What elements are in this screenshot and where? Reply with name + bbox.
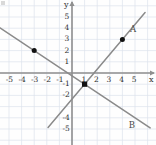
x-tick-label: 4	[119, 76, 124, 84]
x-tick-label: -2	[44, 76, 51, 84]
graph-figure: -5-4-3-2-11234554321-1-2-4-5 y x A B	[0, 0, 156, 145]
y-tick-label: 3	[65, 35, 70, 43]
x-axis-label: x	[149, 76, 154, 84]
y-tick-label: 2	[65, 47, 70, 55]
x-tick-label: -4	[18, 76, 25, 84]
y-tick-label: 4	[65, 24, 70, 32]
y-tick-label: -2	[63, 91, 70, 99]
x-tick-label: -3	[31, 76, 38, 84]
y-tick-label: 5	[65, 13, 70, 21]
x-tick-label: 1	[81, 76, 86, 84]
y-tick-label: 1	[65, 58, 70, 66]
y-tick-label: -1	[63, 80, 70, 88]
y-axis-label: y	[64, 1, 69, 9]
y-tick-label: -4	[63, 114, 70, 122]
x-tick-label: 3	[107, 76, 112, 84]
line-label-a: A	[130, 25, 136, 34]
series-lines	[0, 13, 150, 128]
line-label-b: B	[129, 121, 135, 130]
y-tick-label: -5	[63, 125, 70, 133]
x-tick-label: -5	[6, 76, 13, 84]
x-tick-label: 5	[132, 76, 137, 84]
x-tick-label: 2	[94, 76, 99, 84]
